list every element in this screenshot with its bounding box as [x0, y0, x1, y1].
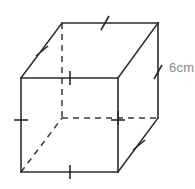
- tick-bottom-right-diagonal: [133, 140, 145, 150]
- cube-figure-screenshot: 6cm: [0, 0, 195, 189]
- cube-diagram: [0, 0, 195, 189]
- front-face-fill: [21, 78, 118, 172]
- edge-top-right-diagonal: [118, 23, 158, 78]
- tick-top-left-diagonal: [36, 46, 48, 56]
- edge-length-label: 6cm: [169, 61, 194, 74]
